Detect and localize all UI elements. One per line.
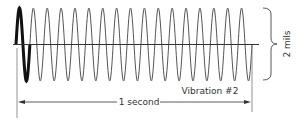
amplitude-label: 2 mils xyxy=(282,30,292,57)
arrowhead-right-icon xyxy=(244,100,251,104)
arrowhead-left-icon xyxy=(18,100,25,104)
vibration-title-label: Vibration #2 xyxy=(182,86,239,96)
vibration-diagram: 1 second Vibration #2 2 mils xyxy=(0,0,305,120)
amplitude-brace-icon xyxy=(263,8,277,80)
period-label: 1 second xyxy=(119,97,160,107)
